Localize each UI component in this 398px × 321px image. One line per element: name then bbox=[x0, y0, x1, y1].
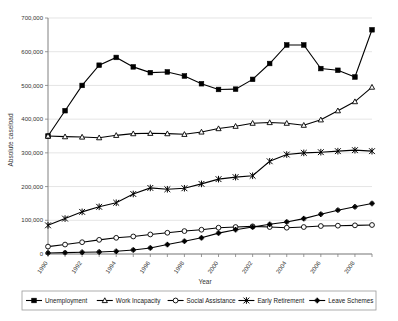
data-point bbox=[216, 87, 221, 92]
data-point bbox=[267, 61, 272, 66]
y-tick-labels: 0100,000200,000300,000400,000500,000600,… bbox=[21, 15, 43, 257]
x-tick-label: 2004 bbox=[275, 260, 288, 275]
legend-item-social-assistance[interactable]: Social Assistance bbox=[168, 297, 236, 304]
data-point bbox=[130, 191, 136, 198]
data-point bbox=[114, 235, 119, 240]
data-point bbox=[199, 81, 204, 86]
chart-legend: UnemploymentWork IncapacitySocial Assist… bbox=[22, 291, 376, 310]
data-point bbox=[62, 250, 67, 255]
legend-label: Social Assistance bbox=[187, 297, 236, 304]
x-tick-label: 2002 bbox=[241, 260, 254, 275]
x-tick-label: 2008 bbox=[343, 260, 356, 275]
data-point bbox=[199, 235, 204, 240]
data-point bbox=[45, 222, 51, 229]
legend-item-unemployment[interactable]: Unemployment bbox=[26, 297, 88, 305]
data-point bbox=[182, 74, 187, 79]
data-point bbox=[62, 215, 68, 222]
data-point bbox=[335, 108, 340, 113]
data-point bbox=[301, 225, 306, 230]
y-tick-label: 300,000 bbox=[21, 150, 43, 156]
data-point bbox=[97, 237, 102, 242]
legend-item-leave-schemes[interactable]: Leave Schemes bbox=[309, 297, 373, 304]
data-point bbox=[216, 230, 221, 235]
legend-marker-filled-plus bbox=[315, 298, 320, 303]
data-point bbox=[301, 43, 306, 48]
legend-label: Work Incapacity bbox=[116, 297, 162, 305]
data-point bbox=[148, 232, 153, 237]
data-point bbox=[165, 230, 170, 235]
data-point bbox=[199, 227, 204, 232]
data-point bbox=[131, 65, 136, 70]
line-chart: 0100,000200,000300,000400,000500,000600,… bbox=[0, 0, 398, 321]
x-tick-labels: 1990199219941996199820002002200420062008 bbox=[36, 260, 356, 275]
data-point bbox=[46, 244, 51, 249]
series-early-retirement bbox=[45, 147, 375, 229]
data-point bbox=[335, 207, 340, 212]
data-point bbox=[165, 70, 170, 75]
legend-marker-open-circle bbox=[173, 298, 178, 303]
legend-item-early-retirement[interactable]: Early Retirement bbox=[238, 297, 304, 305]
chart-figure: 0100,000200,000300,000400,000500,000600,… bbox=[0, 0, 398, 321]
x-tick-label: 1998 bbox=[173, 260, 186, 275]
data-point bbox=[336, 68, 341, 73]
data-point bbox=[63, 108, 68, 113]
data-point bbox=[352, 204, 357, 209]
legend-label: Early Retirement bbox=[257, 297, 304, 305]
data-point bbox=[80, 83, 85, 88]
x-axis-title: Year bbox=[198, 278, 212, 285]
data-point bbox=[233, 87, 238, 92]
data-point bbox=[80, 240, 85, 245]
series-line bbox=[48, 87, 372, 138]
data-point bbox=[319, 66, 324, 71]
y-tick-label: 0 bbox=[40, 251, 44, 257]
series-line bbox=[48, 30, 372, 136]
data-point bbox=[370, 28, 375, 33]
x-tick-label: 1994 bbox=[104, 260, 117, 275]
data-point bbox=[182, 238, 187, 243]
data-point bbox=[216, 225, 221, 230]
series-unemployment bbox=[46, 28, 375, 139]
legend-marker-filled-square bbox=[32, 298, 37, 303]
data-point bbox=[353, 223, 358, 228]
data-point bbox=[45, 250, 50, 255]
legend-item-work-incapacity[interactable]: Work Incapacity bbox=[97, 297, 162, 305]
data-point bbox=[148, 245, 153, 250]
data-point bbox=[267, 158, 273, 165]
legend-label: Unemployment bbox=[45, 297, 88, 305]
x-tick-label: 2000 bbox=[207, 260, 220, 275]
axis-lines bbox=[48, 18, 372, 254]
x-tick-label: 1992 bbox=[70, 260, 83, 275]
data-point bbox=[284, 43, 289, 48]
legend-label: Leave Schemes bbox=[328, 297, 373, 304]
data-point bbox=[284, 225, 289, 230]
y-tick-label: 600,000 bbox=[21, 49, 43, 55]
data-point bbox=[318, 117, 323, 122]
data-point bbox=[369, 201, 374, 206]
data-point bbox=[318, 212, 323, 217]
data-point bbox=[182, 229, 187, 234]
x-tick-label: 2006 bbox=[309, 260, 322, 275]
data-point bbox=[131, 247, 136, 252]
data-point bbox=[370, 223, 375, 228]
y-tick-label: 400,000 bbox=[21, 116, 43, 122]
data-point bbox=[131, 234, 136, 239]
y-tick-label: 100,000 bbox=[21, 217, 43, 223]
data-point bbox=[114, 55, 119, 60]
data-point bbox=[250, 77, 255, 82]
y-tick-label: 500,000 bbox=[21, 83, 43, 89]
y-tick-label: 200,000 bbox=[21, 184, 43, 190]
series-work-incapacity bbox=[45, 84, 374, 139]
series-group bbox=[45, 28, 375, 256]
y-tick-label: 700,000 bbox=[21, 15, 43, 21]
data-point bbox=[335, 223, 340, 228]
gridlines bbox=[48, 18, 372, 254]
x-tick-label: 1990 bbox=[36, 260, 49, 275]
data-point bbox=[97, 63, 102, 68]
data-point bbox=[165, 242, 170, 247]
x-tick-label: 1996 bbox=[139, 260, 152, 275]
data-point bbox=[353, 75, 358, 80]
data-point bbox=[148, 70, 153, 75]
data-point bbox=[63, 242, 68, 247]
data-point bbox=[114, 249, 119, 254]
y-axis-title: Absolute caseload bbox=[7, 113, 14, 167]
